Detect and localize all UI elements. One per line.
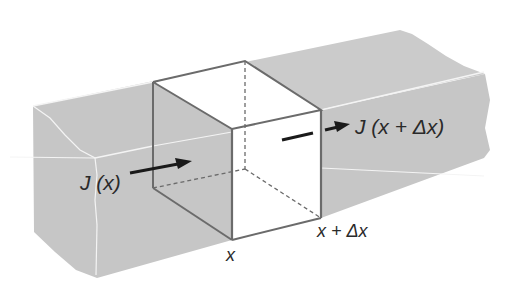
flux-diagram: J (x) J (x + Δx) x x + Δx — [0, 0, 520, 291]
flux-out-label: J (x + Δx) — [355, 116, 444, 137]
diagram-canvas — [0, 0, 520, 291]
position-x-label: x — [226, 246, 235, 264]
position-x-plus-dx-label: x + Δx — [317, 222, 368, 240]
flux-in-label: J (x) — [80, 172, 121, 193]
